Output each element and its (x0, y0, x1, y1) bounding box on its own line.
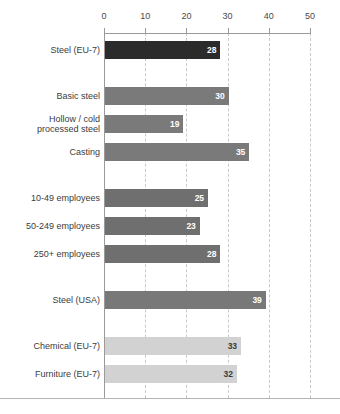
x-tick-label: 50 (305, 11, 315, 21)
bar-category-label: Steel (USA) (0, 295, 100, 306)
bar: 30 (105, 87, 229, 105)
bar-chart: 01020304050 Steel (EU-7)28Basic steel30H… (0, 0, 340, 414)
bar-category-label: 250+ employees (0, 249, 100, 260)
bar-value-label: 25 (195, 194, 204, 203)
bar-row: Furniture (EU-7)32 (0, 365, 340, 383)
bar-value-label: 32 (224, 370, 233, 379)
bar-value-label: 39 (252, 296, 261, 305)
x-tick-label: 0 (101, 11, 106, 21)
bar-row: Hollow / coldprocessed steel19 (0, 115, 340, 133)
bar-row: Basic steel30 (0, 87, 340, 105)
bar: 33 (105, 337, 241, 355)
bar: 39 (105, 291, 266, 309)
bar-row: Chemical (EU-7)33 (0, 337, 340, 355)
bar-category-label: 50-249 employees (0, 221, 100, 232)
bar: 32 (105, 365, 237, 383)
bar-category-label: 10-49 employees (0, 193, 100, 204)
bar-category-label: Steel (EU-7) (0, 45, 100, 56)
bar-category-label: Casting (0, 147, 100, 158)
x-axis-line-top (104, 33, 311, 34)
bar-category-label: Furniture (EU-7) (0, 369, 100, 380)
bar-value-label: 35 (236, 148, 245, 157)
x-tick-label: 40 (264, 11, 274, 21)
bar-value-label: 28 (207, 46, 216, 55)
bar-value-label: 30 (215, 92, 224, 101)
bar: 25 (105, 189, 208, 207)
bar-row: Steel (EU-7)28 (0, 41, 340, 59)
x-axis-tick-labels: 01020304050 (0, 0, 340, 33)
x-tick-label: 30 (223, 11, 233, 21)
x-tick-label: 20 (181, 11, 191, 21)
bar-category-label: Basic steel (0, 91, 100, 102)
bar: 28 (105, 41, 220, 59)
bar: 23 (105, 217, 200, 235)
bar-category-label: Chemical (EU-7) (0, 341, 100, 352)
bar-value-label: 28 (207, 250, 216, 259)
bar-row: 250+ employees28 (0, 245, 340, 263)
bar-value-label: 19 (170, 120, 179, 129)
bar: 28 (105, 245, 220, 263)
bar: 35 (105, 143, 249, 161)
bar: 19 (105, 115, 183, 133)
bar-row: Steel (USA)39 (0, 291, 340, 309)
bar-category-label: Hollow / coldprocessed steel (0, 114, 100, 135)
bar-row: Casting35 (0, 143, 340, 161)
x-axis-line-bottom (0, 398, 340, 399)
bar-row: 10-49 employees25 (0, 189, 340, 207)
bar-value-label: 33 (228, 342, 237, 351)
bar-row: 50-249 employees23 (0, 217, 340, 235)
x-tick-label: 10 (140, 11, 150, 21)
bar-value-label: 23 (186, 222, 195, 231)
